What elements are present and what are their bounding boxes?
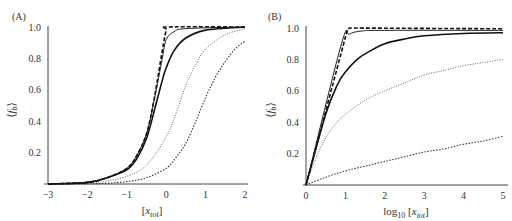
y-tick-label: 0.8 [29,53,42,64]
x-tick-label: 2 [243,189,248,200]
series-line-dotted-thick [48,41,245,184]
series-line-dashed-thick [306,28,503,185]
x-tick-label: 2 [382,190,387,201]
x-tick-label: 0 [304,190,309,201]
y-tick-label: 1.0 [287,23,300,34]
y-tick-label: 0.2 [287,148,300,159]
series-line-dotted [48,29,245,184]
y-tick-labels-a: 0.20.40.60.81.0 [29,22,42,159]
x-tick-label: −1 [121,189,132,200]
x-axis-label-b: log10 [xtot] [383,205,429,220]
series-line-solid-thin [306,30,503,185]
panel-label-b: (B) [268,11,281,23]
x-tick-label: 1 [343,190,348,201]
x-tick-label: −2 [82,189,93,200]
y-tick-label: 0.6 [287,85,300,96]
plot-area-b [306,28,503,185]
y-tick-label: 1.0 [29,22,42,33]
plot-area-a [48,27,245,184]
x-tick-label: 4 [461,190,466,201]
y-tick-label: 0.8 [287,54,300,65]
series-line-solid-thick [306,33,503,185]
panel-a: (A) 0.20.40.60.81.0 −3−2−1012 ⟨fb⟩ [xtot… [5,11,248,219]
series-line-dotted-thick [306,136,503,185]
y-axis-label-b: ⟨fb⟩ [264,102,278,118]
series-line-solid-thick [48,27,245,184]
series-line-dotted [306,59,503,185]
y-tick-label: 0.4 [29,116,42,127]
y-tick-label: 0.6 [29,84,42,95]
series-line-solid-thin [48,27,245,184]
series-line-dashed-thick [48,27,245,184]
x-tick-label: 5 [501,190,506,201]
y-axis-label-a: ⟨fb⟩ [5,102,19,118]
x-tick-labels-b: 012345 [304,190,506,201]
x-tick-label: 1 [203,189,208,200]
panel-b: (B) 0.20.40.60.81.0 012345 ⟨fb⟩ log10 [x… [264,11,508,220]
x-axis-label-a: [xtot] [142,204,163,219]
x-tick-labels-a: −3−2−1012 [43,189,248,200]
y-tick-label: 0.4 [287,117,300,128]
y-tick-labels-b: 0.20.40.60.81.0 [287,23,300,160]
panel-label-a: (A) [12,11,26,23]
x-tick-label: 3 [422,190,427,201]
x-tick-label: 0 [164,189,169,200]
x-tick-label: −3 [43,189,54,200]
y-tick-label: 0.2 [29,147,42,158]
